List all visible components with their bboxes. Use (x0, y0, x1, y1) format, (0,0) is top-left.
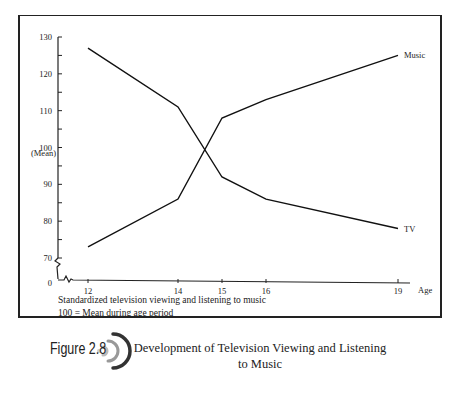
x-axis-label: Age (418, 285, 432, 295)
chart-note-line2: 100 = Mean during age period (58, 308, 173, 318)
y-tick-label: 120 (39, 69, 52, 79)
y-tick-label: 110 (40, 106, 52, 116)
y-tick-label: 0 (48, 278, 52, 288)
y-tick-label: 70 (44, 253, 53, 263)
figure-title: Development of Television Viewing and Li… (130, 340, 390, 372)
y-tick-label: 90 (44, 179, 53, 189)
y-tick-label: 130 (39, 32, 52, 42)
x-tick-label: 19 (394, 286, 403, 296)
y-axis-label: (Mean) (31, 148, 56, 158)
series-label-music: Music (404, 50, 425, 60)
chart-note-line1: Standardized television viewing and list… (58, 295, 266, 305)
y-tick-label: 80 (44, 216, 53, 226)
series-line-tv (88, 48, 398, 228)
figure-label: Figure 2.8 (50, 340, 106, 358)
series-label-tv: TV (404, 224, 416, 234)
